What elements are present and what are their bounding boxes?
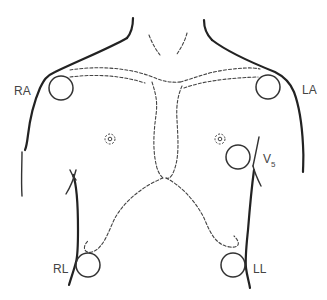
nipples [105, 134, 225, 144]
sternum-right [152, 82, 163, 178]
electrode-ll: LL [221, 253, 267, 277]
neck-inner-left [177, 33, 187, 54]
neck-left-side [204, 20, 212, 40]
neck [127, 18, 212, 55]
right-nipple-icon [105, 134, 115, 144]
right-clavicle-lower [70, 75, 145, 83]
neck-right-side [127, 18, 133, 38]
electrode-v5-subscript: 5 [271, 160, 276, 169]
skeleton-outline [70, 68, 260, 253]
left-shoulder-arm [212, 40, 303, 172]
electrode-rl-label: RL [53, 262, 69, 276]
electrode-la-circle-icon [256, 75, 280, 99]
torso-inner-lines [66, 137, 261, 288]
rib-cage-right [84, 178, 163, 252]
neck-inner-right [149, 35, 160, 55]
left-shoulder-outline [212, 40, 303, 172]
electrode-ll-circle-icon [221, 253, 245, 277]
electrode-la-label: LA [302, 83, 317, 97]
electrode-ll-label: LL [253, 262, 267, 276]
electrode-ra-label: RA [14, 84, 31, 98]
left-nipple-icon [215, 134, 225, 144]
left-armpit-fork-top [253, 137, 259, 166]
electrode-ra-circle-icon [49, 76, 73, 100]
right-clavicle-upper [70, 68, 180, 82]
right-shoulder-arm [22, 38, 127, 196]
left-clavicle-lower [184, 77, 258, 88]
rib-cage-left [166, 178, 238, 247]
electrode-v5-circle-icon [226, 145, 250, 169]
electrode-v5-label: V [263, 152, 271, 166]
right-shoulder-outline [25, 38, 127, 150]
sternum-left [166, 86, 182, 178]
electrode-rl-circle-icon [76, 253, 100, 277]
electrode-v5: V 5 [226, 145, 276, 169]
ecg-electrode-placement-diagram: RA LA V 5 RL LL [0, 0, 327, 300]
